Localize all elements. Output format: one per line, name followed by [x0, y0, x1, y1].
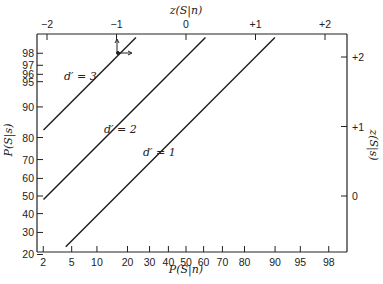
bottom-tick-label: 95: [294, 256, 306, 268]
bottom-tick-label: 5: [69, 256, 75, 268]
bottom-axis-title: P(S|n): [168, 263, 203, 277]
bottom-tick-label: 10: [91, 256, 103, 268]
top-tick-label: 0: [183, 18, 189, 30]
left-tick-label: 80: [22, 132, 34, 144]
bottom-tick-label: 98: [323, 256, 335, 268]
d-prime-line: [44, 38, 136, 130]
bottom-tick-label: 20: [122, 256, 134, 268]
plot-frame: [37, 34, 347, 252]
right-axis-title: z(S|s): [366, 128, 380, 160]
top-axis-title: z(S|n): [169, 4, 203, 18]
left-tick-label: 70: [22, 154, 34, 166]
left-tick-label: 90: [22, 101, 34, 113]
bottom-tick-label: 80: [239, 256, 251, 268]
bottom-tick-label: 2: [40, 256, 46, 268]
left-tick-label: 40: [22, 208, 34, 220]
left-axis-title: P(S|s): [2, 124, 16, 158]
bottom-tick-label: 90: [269, 256, 281, 268]
left-tick-label: 20: [22, 248, 34, 260]
top-tick-label: +2: [319, 18, 331, 30]
bottom-tick-label: 70: [217, 256, 229, 268]
label-d-prime-1: d′ = 1: [143, 146, 176, 159]
d-prime-line: [44, 38, 206, 200]
left-tick-label: 98: [22, 47, 34, 59]
right-tick-label: +1: [352, 121, 364, 133]
criterion-arrow-marker: [115, 39, 132, 55]
d-prime-lines: [44, 38, 275, 247]
right-axis-z-ss: 0+1+2: [341, 51, 364, 202]
top-tick-label: −1: [111, 18, 123, 30]
bottom-tick-label: 30: [144, 256, 156, 268]
top-axis-z-sn: −2−10+1+2: [41, 18, 331, 40]
label-d-prime-3: d′ = 3: [64, 70, 97, 83]
left-axis-p-ss: 203040506070809095969798: [22, 47, 43, 260]
left-tick-label: 30: [22, 226, 34, 238]
top-tick-label: +1: [250, 18, 262, 30]
left-tick-label: 50: [22, 190, 34, 202]
top-tick-label: −2: [41, 18, 53, 30]
label-d-prime-2: d′ = 2: [104, 123, 137, 136]
right-tick-label: +2: [352, 51, 364, 63]
left-tick-label: 97: [22, 59, 34, 71]
roc-chart: −2−10+1+2 0+1+2 251020304050607080909598…: [0, 0, 383, 284]
left-tick-label: 60: [22, 172, 34, 184]
right-tick-label: 0: [352, 190, 358, 202]
d-prime-line: [66, 38, 275, 247]
